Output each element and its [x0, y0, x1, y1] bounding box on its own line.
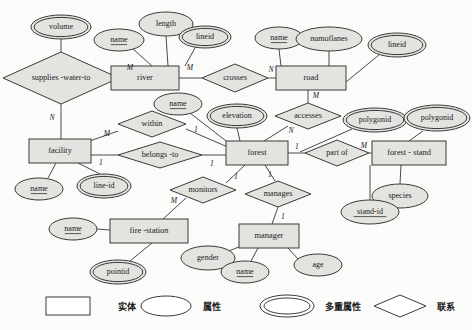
edge-age-manager — [288, 248, 299, 260]
legend-multi: 多重属性 — [260, 295, 361, 317]
relationship-label: accesses — [294, 111, 322, 120]
attribute-elevation[interactable]: elevation — [207, 104, 267, 128]
er-diagram-canvas: supplies -water-tocrosseswithinbelongs -… — [0, 0, 472, 330]
legend-attribute-label: 属性 — [202, 301, 221, 312]
edge-length-river — [166, 36, 168, 66]
relationship-label: part of — [326, 148, 348, 157]
relationship-crosses[interactable]: crosses — [202, 64, 268, 92]
attribute-stand-id[interactable]: stand-id — [341, 200, 399, 224]
attribute-facility-name[interactable]: name — [15, 178, 63, 200]
attribute-station-name[interactable]: name — [49, 218, 97, 240]
cardinality-card-river-crosses: M — [186, 63, 194, 72]
entity-label: river — [137, 73, 153, 82]
attribute-label: species — [388, 191, 411, 200]
cardinality-card-manages-1b: 1 — [281, 212, 285, 221]
edge-within-facility — [87, 131, 118, 142]
relationship-monitors[interactable]: monitors — [170, 177, 236, 203]
attribute-label: name — [270, 33, 288, 42]
attribute-label: line-id — [94, 181, 115, 190]
attribute-label: length — [156, 19, 176, 28]
relationship-label: supplies -water-to — [32, 73, 91, 82]
attribute-label: age — [312, 260, 324, 269]
cardinality-card-monitors-1: 1 — [234, 172, 238, 181]
entity-label: forest - stand — [387, 148, 432, 157]
cardinality-card-road-accesses: M — [312, 91, 320, 100]
relationship-accesses[interactable]: accesses — [275, 103, 341, 129]
attribute-label: name — [169, 99, 187, 108]
edge-lineid-facility — [78, 163, 100, 174]
er-diagram-svg: supplies -water-tocrosseswithinbelongs -… — [0, 0, 472, 330]
legend-relationship-diamond — [374, 295, 426, 317]
edge-pointid-station — [130, 243, 152, 261]
edge-facname-facility — [48, 163, 56, 178]
entity-road[interactable]: road — [276, 66, 346, 90]
relationship-label: crosses — [223, 73, 247, 82]
cardinality-card-supplies-river: M — [126, 63, 134, 72]
cardinality-card-supplies-n: N — [48, 113, 55, 122]
attribute-stand-polygonid[interactable]: polygonid — [404, 105, 470, 131]
attribute-label: name — [236, 267, 254, 276]
relationship-label: within — [142, 119, 163, 128]
edge-roadlineid-road — [346, 54, 380, 82]
attribute-numoflanes[interactable]: numoflanes — [296, 27, 362, 51]
entity-fire-station[interactable]: fire -station — [110, 219, 188, 243]
relationship-label: monitors — [188, 185, 217, 194]
attribute-forest-name[interactable]: name — [154, 93, 202, 115]
attribute-label: name — [64, 224, 82, 233]
legend-entity-rect — [46, 297, 90, 315]
relationship-label: manages — [264, 189, 293, 198]
entity-river[interactable]: river — [111, 66, 179, 90]
attribute-river-lineid[interactable]: lineid — [179, 26, 231, 48]
cardinality-card-crosses-road: N — [267, 65, 274, 74]
cardinality-card-forest-partof: 1 — [295, 142, 299, 151]
entity-label: manager — [255, 231, 284, 240]
attribute-volume[interactable]: volume — [31, 15, 91, 39]
cardinality-card-belongs-1l: 1 — [99, 158, 103, 167]
edge-species-stand — [400, 165, 401, 184]
edge-rivername-river — [133, 49, 152, 66]
cardinality-card-within-1: 1 — [194, 125, 198, 134]
attribute-road-lineid[interactable]: lineid — [368, 33, 426, 57]
attribute-age[interactable]: age — [294, 254, 342, 276]
cardinality-card-partof-stand: M — [360, 141, 368, 150]
attribute-label: polygonid — [359, 115, 391, 124]
cardinality-card-manages-1t: 1 — [268, 170, 272, 179]
relationship-belongs-to[interactable]: belongs -to — [118, 142, 202, 168]
attribute-label: lineid — [196, 32, 214, 41]
attribute-forest-polygonid[interactable]: polygonid — [343, 108, 407, 132]
attribute-label: polygonid — [421, 113, 453, 122]
legend-multivalued-inner-ellipse — [264, 298, 310, 314]
legend-multi-label: 多重属性 — [325, 301, 361, 312]
legend-entity-label: 实体 — [118, 301, 137, 312]
cardinality-card-monitors-m: M — [170, 196, 178, 205]
attribute-river-name[interactable]: name — [94, 29, 144, 51]
entity-facility[interactable]: facility — [29, 139, 91, 163]
entity-label: road — [304, 73, 320, 82]
edge-statname-station — [97, 229, 110, 230]
edge-elevation-forest — [237, 128, 240, 141]
entity-manager[interactable]: manager — [239, 224, 299, 248]
attribute-label: volume — [49, 22, 73, 31]
attribute-label: numoflanes — [310, 34, 347, 43]
legend-entity: 实体 — [46, 297, 137, 315]
edge-accesses-forest — [264, 126, 288, 141]
legend-relationship-label: 联系 — [437, 301, 455, 312]
relationship-label: belongs -to — [142, 150, 179, 159]
cardinality-card-belongs-1r: 1 — [210, 159, 214, 168]
attribute-label: name — [30, 184, 48, 193]
attribute-label: lineid — [388, 40, 406, 49]
legend-relationship: 联系 — [374, 295, 455, 317]
entity-label: facility — [48, 146, 73, 155]
entity-forest[interactable]: forest — [226, 141, 288, 165]
attribute-pointid[interactable]: pointid — [90, 260, 146, 284]
legend-layer: 实体属性多重属性联系 — [46, 295, 455, 317]
entity-forest-stand[interactable]: forest - stand — [372, 141, 446, 165]
attribute-manager-name[interactable]: name — [221, 261, 269, 283]
relationship-part-of[interactable]: part of — [305, 140, 369, 166]
relationship-manages[interactable]: manages — [245, 181, 311, 207]
attribute-label: stand-id — [357, 207, 383, 216]
relationship-supplies-water-to[interactable]: supplies -water-to — [3, 52, 119, 104]
legend-attribute-ellipse — [141, 296, 191, 316]
attribute-label: gender — [197, 253, 219, 262]
attribute-line-id[interactable]: line-id — [77, 174, 131, 198]
